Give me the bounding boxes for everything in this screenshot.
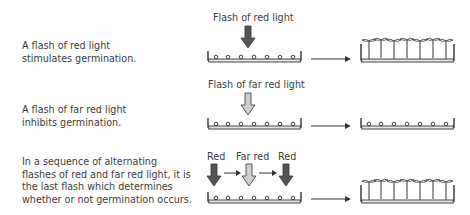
dish-with-seedlings [361, 38, 454, 62]
dish-with-seeds [208, 51, 301, 62]
dish-with-seeds [208, 192, 301, 203]
right-arrow-icon [311, 123, 351, 129]
red-flash-arrow-icon [241, 26, 255, 48]
right-arrow-icon [311, 56, 351, 62]
diagram-graphics [0, 0, 470, 215]
red-flash-arrow-icon [279, 164, 293, 186]
far-red-flash-arrow-icon [241, 93, 255, 115]
dish-with-seedlings [361, 179, 454, 203]
right-arrow-icon [311, 196, 351, 202]
dish-with-seeds [208, 118, 301, 129]
far-red-flash-arrow-icon [242, 164, 256, 186]
red-flash-arrow-icon [207, 164, 221, 186]
dish-with-ungerminated-seeds [361, 118, 454, 129]
